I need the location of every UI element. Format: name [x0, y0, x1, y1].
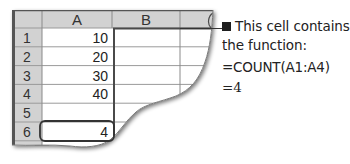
row-header-label[interactable]: 4: [23, 86, 31, 102]
row-header-label[interactable]: 3: [23, 68, 31, 84]
cell-a1[interactable]: 10: [92, 30, 108, 46]
cell-a6[interactable]: 4: [100, 124, 108, 140]
row-header-label[interactable]: 6: [23, 124, 31, 140]
callout-text-line1: This cell contains: [235, 18, 350, 34]
row-header-label[interactable]: 1: [23, 30, 31, 46]
callout-result: =4: [222, 79, 340, 95]
cell-a3[interactable]: 30: [92, 68, 108, 84]
table-row: 5: [23, 105, 31, 121]
column-header-b: B: [141, 11, 151, 28]
row-header-label[interactable]: 2: [23, 49, 31, 65]
callout-line-1: This cell contains: [222, 17, 340, 36]
row-header-label[interactable]: 5: [23, 105, 31, 121]
callout: This cell contains the function: =COUNT(…: [222, 17, 340, 95]
column-header-a: A: [72, 11, 82, 28]
callout-line-2: the function:: [222, 36, 340, 55]
cell-a4[interactable]: 40: [92, 86, 108, 102]
column-header-row: [12, 10, 217, 28]
square-bullet-icon: [222, 22, 231, 31]
cell-a2[interactable]: 20: [92, 49, 108, 65]
callout-formula: =COUNT(A1:A4): [222, 59, 340, 75]
